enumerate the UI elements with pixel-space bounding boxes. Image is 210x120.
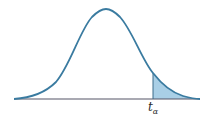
shaded-tail-area: [153, 73, 200, 99]
t-alpha-label: tα: [148, 100, 158, 116]
distribution-diagram: [0, 0, 210, 120]
density-curve: [14, 9, 200, 99]
label-subscript: α: [153, 107, 158, 116]
